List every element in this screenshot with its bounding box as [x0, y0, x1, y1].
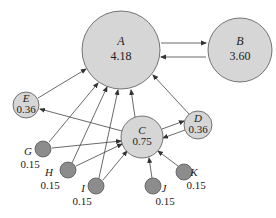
node-h: H0.15 [40, 162, 76, 191]
node-circle [60, 162, 76, 178]
node-label: I [80, 182, 86, 194]
node-c: C0.75 [121, 116, 163, 158]
node-value: 0.75 [132, 135, 152, 147]
node-value: 0.36 [16, 103, 36, 115]
edge-h-to-c [76, 144, 122, 166]
node-value: 4.18 [111, 49, 132, 63]
edge-c-to-d [162, 121, 184, 129]
edge-g-to-c [52, 141, 121, 148]
node-circle [35, 141, 51, 157]
node-value: 0.15 [20, 158, 40, 170]
node-label: B [236, 34, 244, 48]
node-value: 0.15 [72, 195, 92, 207]
node-j: J0.15 [145, 178, 175, 207]
node-label: G [24, 145, 32, 157]
node-b: B3.60 [208, 18, 272, 82]
node-label: K [189, 166, 198, 178]
node-a: A4.18 [82, 11, 160, 89]
edge-k-to-c [158, 151, 178, 166]
edge-d-to-a [153, 75, 189, 114]
node-value: 0.15 [186, 179, 206, 191]
edge-i-to-c [103, 151, 127, 180]
node-k: K0.15 [176, 164, 206, 191]
node-value: 0.36 [188, 123, 208, 135]
edge-j-to-c [149, 158, 152, 178]
node-circle [145, 178, 161, 194]
node-value: 0.15 [155, 195, 175, 207]
edge-d-to-c [163, 130, 185, 138]
node-label: A [116, 34, 125, 48]
node-d: D0.36 [184, 111, 212, 139]
edge-e-to-a [38, 69, 86, 98]
node-value: 0.15 [40, 179, 60, 191]
node-i: I0.15 [72, 178, 104, 207]
edge-g-to-a [49, 83, 98, 142]
node-value: 3.60 [230, 49, 251, 63]
node-label: J [162, 182, 168, 194]
node-circle [88, 178, 104, 194]
edge-c-to-a [131, 90, 135, 117]
nodes-layer: A4.18B3.60C0.75D0.36E0.36G0.15H0.15I0.15… [13, 11, 272, 207]
node-e: E0.36 [13, 92, 39, 118]
node-label: H [44, 166, 54, 178]
pagerank-graph: A4.18B3.60C0.75D0.36E0.36G0.15H0.15I0.15… [0, 0, 276, 218]
edge-h-to-a [72, 87, 107, 163]
